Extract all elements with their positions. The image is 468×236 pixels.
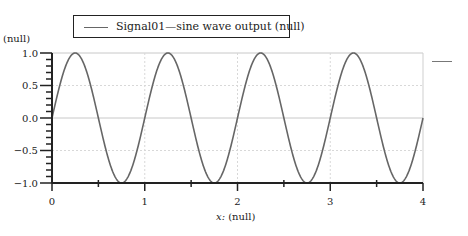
x-tick-label: 4 — [420, 196, 426, 207]
side-dash-marker — [432, 61, 452, 62]
x-tick-label: 2 — [234, 196, 240, 207]
x-axis-unit: (null) — [228, 211, 255, 222]
y-tick-label: 0.0 — [22, 113, 38, 124]
y-tick-label: −0.5 — [14, 145, 38, 156]
x-tick-label: 1 — [142, 196, 148, 207]
x-tick-label: 3 — [327, 196, 333, 207]
y-tick-label: −1.0 — [14, 178, 38, 189]
legend: Signal01—sine wave output (null) — [73, 15, 290, 38]
y-tick-label: 0.5 — [22, 80, 38, 91]
x-axis-label: x: (null) — [216, 211, 255, 222]
legend-swatch — [84, 27, 108, 28]
y-tick-label: 1.0 — [22, 48, 38, 59]
legend-label: Signal01—sine wave output (null) — [116, 20, 305, 33]
x-tick-label: 0 — [49, 196, 55, 207]
y-axis-label: (null) — [3, 33, 30, 44]
x-axis-var: x: — [216, 211, 225, 222]
